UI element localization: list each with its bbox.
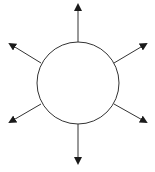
arrow-upper-right-icon	[114, 44, 146, 63]
arrow-upper-left-icon	[10, 44, 41, 63]
arrow-lower-left-icon	[10, 104, 41, 122]
arrow-lower-right-icon	[114, 104, 146, 122]
radial-diagram	[0, 0, 155, 172]
center-circle	[37, 42, 119, 124]
